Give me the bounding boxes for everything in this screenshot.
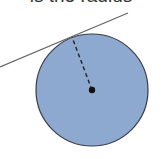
center-point: [89, 87, 95, 93]
tangent-circle-diagram: [0, 0, 162, 159]
